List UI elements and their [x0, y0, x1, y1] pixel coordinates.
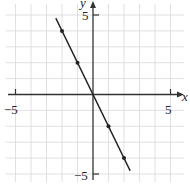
x-tick-label-pos5: 5 [165, 102, 172, 117]
data-point [107, 124, 111, 128]
x-tick-label-neg5: −5 [4, 102, 18, 117]
y-axis-label: y [78, 0, 86, 10]
tick-labels: −5 5 5 −5 x y [4, 0, 188, 183]
grid-lines [6, 4, 184, 182]
y-tick-label-pos5: 5 [82, 8, 89, 23]
data-point [122, 156, 126, 160]
data-point [60, 29, 64, 33]
axes [8, 1, 184, 180]
coordinate-plane: −5 5 5 −5 x y [0, 0, 190, 184]
y-tick-label-neg5: −5 [74, 168, 88, 183]
x-axis-label: x [181, 89, 188, 104]
y-axis-arrow-icon [90, 1, 96, 8]
data-point [76, 61, 80, 65]
